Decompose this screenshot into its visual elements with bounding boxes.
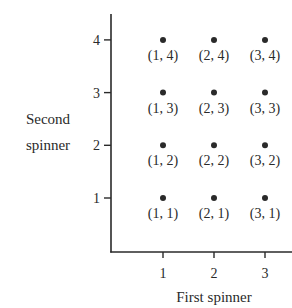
data-point: (3, 1) [250, 195, 281, 222]
data-point: (3, 2) [250, 142, 281, 169]
y-tick-label: 1 [93, 191, 100, 206]
point-dot-icon [160, 37, 166, 43]
point-label: (1, 1) [148, 206, 179, 222]
point-label: (2, 1) [199, 206, 230, 222]
data-point: (3, 3) [250, 90, 281, 117]
data-point: (1, 1) [148, 195, 179, 222]
x-ticks: 123 [160, 252, 269, 281]
data-point: (3, 4) [250, 37, 281, 64]
x-tick-label: 3 [262, 266, 269, 281]
point-dot-icon [262, 37, 268, 43]
y-axis-label-line1: Second [26, 111, 71, 127]
point-label: (3, 4) [250, 48, 281, 64]
y-tick-label: 2 [93, 138, 100, 153]
y-tick-label: 4 [93, 33, 100, 48]
point-dot-icon [160, 142, 166, 148]
y-ticks: 1234 [93, 33, 111, 206]
data-point: (2, 3) [199, 90, 230, 117]
point-label: (1, 2) [148, 153, 179, 169]
data-point: (1, 3) [148, 90, 179, 117]
point-dot-icon [211, 142, 217, 148]
data-point: (2, 1) [199, 195, 230, 222]
data-points: (1, 4)(2, 4)(3, 4)(1, 3)(2, 3)(3, 3)(1, … [148, 37, 281, 222]
data-point: (2, 2) [199, 142, 230, 169]
y-tick-label: 3 [93, 86, 100, 101]
x-tick-label: 1 [160, 266, 167, 281]
point-label: (2, 2) [199, 153, 230, 169]
data-point: (2, 4) [199, 37, 230, 64]
point-label: (1, 3) [148, 101, 179, 117]
point-label: (3, 1) [250, 206, 281, 222]
point-dot-icon [211, 37, 217, 43]
point-dot-icon [262, 90, 268, 96]
point-label: (3, 3) [250, 101, 281, 117]
x-tick-label: 2 [211, 266, 218, 281]
point-dot-icon [262, 195, 268, 201]
point-label: (2, 3) [199, 101, 230, 117]
point-label: (3, 2) [250, 153, 281, 169]
y-axis-label-line2: spinner [26, 137, 70, 153]
data-point: (1, 2) [148, 142, 179, 169]
point-dot-icon [262, 142, 268, 148]
data-point: (1, 4) [148, 37, 179, 64]
point-dot-icon [211, 195, 217, 201]
sample-space-chart: 1234 123 (1, 4)(2, 4)(3, 4)(1, 3)(2, 3)(… [0, 0, 292, 308]
point-dot-icon [160, 90, 166, 96]
point-label: (1, 4) [148, 48, 179, 64]
point-dot-icon [211, 90, 217, 96]
point-label: (2, 4) [199, 48, 230, 64]
x-axis-label: First spinner [176, 289, 251, 305]
point-dot-icon [160, 195, 166, 201]
